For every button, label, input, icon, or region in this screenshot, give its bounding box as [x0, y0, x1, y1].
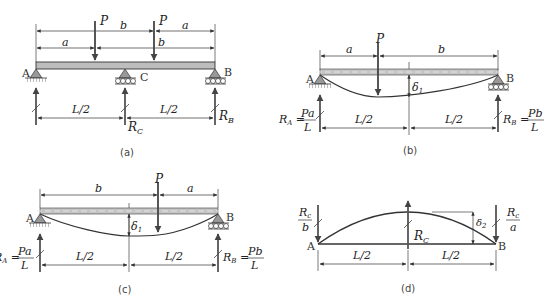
reaction-formula-b: RB = Pb L	[502, 107, 544, 134]
svg-text:L: L	[250, 259, 258, 272]
span-label: L/2	[71, 103, 90, 116]
panel-b: a b P δ1 A B	[278, 32, 544, 156]
load-label: P	[375, 32, 385, 46]
svg-text:RB =: RB =	[502, 113, 529, 127]
svg-text:L: L	[20, 259, 28, 272]
svg-text:a: a	[510, 221, 517, 234]
beam-deflection-figure: b a a b P P A	[0, 0, 553, 307]
svg-text:b: b	[302, 221, 309, 234]
support-label-a: A	[305, 73, 315, 86]
svg-text:Pb: Pb	[247, 245, 262, 258]
span-label: L/2	[75, 250, 94, 263]
reaction-label-c: RC	[127, 120, 143, 136]
dim-label: b	[120, 19, 127, 32]
svg-text:RB =: RB =	[222, 251, 249, 265]
svg-text:Pa: Pa	[17, 245, 31, 258]
reaction-label-b: RB	[218, 109, 234, 125]
dim-label: b	[438, 43, 445, 56]
roller-support-icon	[115, 69, 136, 84]
center-force-label: RC	[413, 229, 429, 245]
span-label: L/2	[164, 250, 183, 263]
dim-label: b	[158, 36, 165, 49]
end-force-label-a: Rc b	[298, 206, 312, 234]
span-label: L/2	[444, 113, 463, 126]
span-label: L/2	[159, 103, 178, 116]
dim-label: b	[95, 182, 102, 195]
span-label: L/2	[441, 249, 460, 262]
deflection-arc	[318, 212, 496, 244]
caption-d: (d)	[401, 283, 415, 294]
beam	[36, 62, 215, 69]
dim-label: a	[62, 36, 69, 49]
deflection-label: δ1	[412, 81, 423, 95]
dim-label: a	[182, 19, 189, 32]
support-label-a: A	[306, 240, 316, 253]
span-label: L/2	[354, 113, 373, 126]
panel-d: δ2 RC Rc b Rc a A B L	[298, 201, 520, 294]
support-label-c: C	[140, 71, 148, 84]
caption-b: (b)	[403, 145, 417, 156]
svg-text:Pb: Pb	[527, 107, 542, 120]
load-label: P	[99, 14, 109, 28]
support-label-b: B	[506, 72, 514, 85]
svg-text:L: L	[303, 121, 311, 134]
dim-label: a	[346, 43, 353, 56]
dim-label: a	[187, 182, 194, 195]
span-label: L/2	[352, 249, 371, 262]
reaction-formula-a: RA = Pa L	[0, 245, 34, 272]
svg-text:Rc: Rc	[506, 206, 519, 220]
deflection-label: δ1	[131, 220, 142, 234]
caption-c: (c)	[118, 284, 131, 295]
deflection-label: δ2	[476, 217, 487, 230]
svg-text:L: L	[530, 121, 538, 134]
support-label-a: A	[25, 212, 35, 225]
svg-text:Pa: Pa	[300, 107, 314, 120]
reaction-formula-b: RB = Pb L	[222, 245, 264, 272]
support-label-b: B	[498, 240, 506, 253]
end-force-label-b: Rc a	[506, 206, 520, 234]
load-label: P	[154, 172, 164, 186]
reaction-arrow	[36, 88, 215, 125]
load-label: P	[158, 14, 168, 28]
support-label-b: B	[226, 211, 234, 224]
support-label-a: A	[21, 67, 31, 80]
roller-support-icon	[205, 69, 226, 84]
panel-c: b a P δ1 A B	[0, 172, 264, 295]
svg-text:Rc: Rc	[298, 206, 311, 220]
caption-a: (a)	[120, 147, 134, 158]
support-label-b: B	[224, 66, 232, 79]
reaction-formula-a: RA = Pa L	[278, 107, 316, 134]
panel-a: b a a b P P A	[21, 14, 234, 158]
